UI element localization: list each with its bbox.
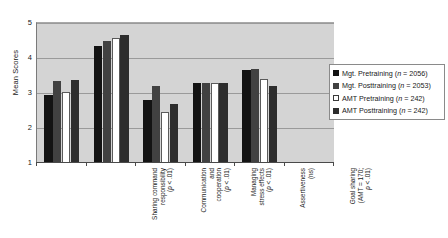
y-tick-label: 2 [18, 123, 32, 132]
y-axis-tick-labels: 12345 [14, 0, 32, 238]
x-axis-category-label: Assertiveness(ns) [299, 168, 314, 238]
bar [120, 35, 128, 163]
legend-swatch [333, 83, 339, 89]
legend-item: AMT Pretraining (n = 242) [332, 92, 442, 105]
legend-swatch [333, 70, 339, 76]
y-tick-label: 5 [18, 18, 32, 27]
bar [251, 69, 259, 164]
plot-area [36, 22, 334, 163]
bar [219, 83, 227, 163]
x-axis-tick [185, 163, 186, 166]
x-axis-tick [284, 163, 285, 166]
x-axis-tick [86, 163, 87, 166]
legend: Mgt. Pretraining (n = 2056)Mgt. Posttrai… [329, 64, 445, 120]
bar [269, 86, 277, 163]
bar [170, 104, 178, 164]
bar [62, 92, 70, 163]
bar [143, 100, 151, 163]
y-tick-label: 1 [18, 158, 32, 167]
x-axis-category-label: Sharing commandresponsibility(p < .01) [151, 168, 174, 238]
legend-label: AMT Pretraining (n = 242) [342, 94, 425, 103]
x-axis-category-label: Goal sharing(AMT = 170;p < .01) [349, 168, 372, 238]
legend-swatch [333, 108, 339, 114]
legend-label: AMT Posttraining (n = 242) [342, 106, 428, 115]
x-axis-tick [333, 163, 334, 166]
y-tick-label: 3 [18, 88, 32, 97]
chart-figure: Mean Scores 12345 Sharing commandrespons… [0, 0, 448, 238]
x-axis-tick [36, 163, 37, 166]
bar [242, 70, 250, 163]
bar [161, 112, 169, 163]
x-axis-category-label: Managingstress effects(p < .01) [250, 168, 273, 238]
bar [94, 46, 102, 163]
bar [211, 83, 219, 163]
legend-item: AMT Posttraining (n = 242) [332, 105, 442, 118]
legend-swatch [333, 95, 339, 101]
bar [152, 86, 160, 163]
bar [260, 79, 268, 163]
x-axis-tick [234, 163, 235, 166]
legend-item: Mgt. Pretraining (n = 2056) [332, 67, 442, 80]
bar [71, 80, 79, 163]
legend-item: Mgt. Posttraining (n = 2053) [332, 80, 442, 93]
bar [202, 83, 210, 163]
bar [193, 83, 201, 163]
bar [44, 95, 52, 163]
bars-layer [37, 23, 334, 163]
legend-label: Mgt. Pretraining (n = 2056) [342, 69, 428, 78]
x-axis-tick [135, 163, 136, 166]
bar [103, 41, 111, 164]
y-tick-label: 4 [18, 53, 32, 62]
bar [112, 38, 120, 163]
legend-label: Mgt. Posttraining (n = 2053) [342, 81, 431, 90]
bar [53, 81, 61, 163]
x-axis-category-label: Communicationandcooperation(p < .01) [200, 168, 230, 238]
